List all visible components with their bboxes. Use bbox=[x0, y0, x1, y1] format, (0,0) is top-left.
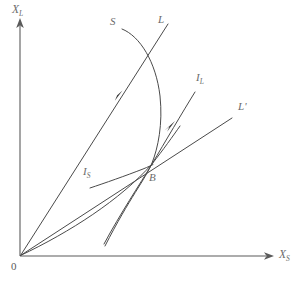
x-axis-label: XS bbox=[279, 249, 290, 263]
curve-label-s: S bbox=[110, 16, 116, 27]
curve-l-prime bbox=[21, 118, 233, 256]
axes-group bbox=[16, 18, 274, 260]
curve-label-l: L bbox=[158, 14, 164, 25]
arrow-on-i-l-arm bbox=[165, 121, 176, 132]
point-label-b: B bbox=[149, 172, 156, 183]
diagram-canvas bbox=[0, 0, 300, 289]
curve-label-i-s: IS bbox=[83, 166, 90, 180]
x-axis-label-text: X bbox=[279, 248, 286, 260]
origin-label: 0 bbox=[11, 261, 17, 272]
y-axis-label-text: X bbox=[12, 3, 19, 15]
curve-label-i-s-sub: S bbox=[87, 171, 91, 180]
curve-s bbox=[105, 29, 161, 246]
curve-i-l bbox=[104, 92, 195, 244]
curve-label-l-prime-mark: ' bbox=[244, 100, 246, 112]
curves-group bbox=[21, 24, 233, 256]
curve-i-s-left-arm bbox=[90, 165, 153, 189]
x-axis-label-sub: S bbox=[286, 254, 290, 263]
curve-i-s-upper-arm bbox=[21, 126, 181, 256]
y-axis-label-sub: L bbox=[19, 9, 23, 18]
curve-label-i-l: IL bbox=[196, 72, 204, 86]
curve-label-l-prime: L' bbox=[238, 101, 246, 112]
curve-l bbox=[21, 24, 169, 256]
curve-label-i-l-sub: L bbox=[200, 77, 204, 86]
arrow-on-l-ray bbox=[113, 91, 123, 101]
y-axis-label: XL bbox=[12, 4, 23, 18]
phase-diagram-figure: XL XS 0 S L IL IS L' B bbox=[0, 0, 300, 289]
